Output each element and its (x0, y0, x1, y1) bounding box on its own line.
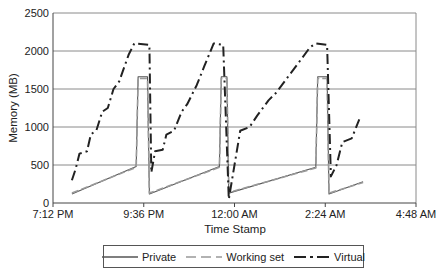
legend-label: Virtual (334, 251, 365, 263)
solid-line-icon (102, 253, 138, 261)
y-tick-labels: 05001000150020002500 (25, 7, 49, 209)
legend-item-virtual: Virtual (294, 251, 365, 263)
y-tick-label: 1000 (25, 121, 49, 133)
legend-item-working-set: Working set (186, 251, 284, 263)
x-axis-title: Time Stamp (204, 223, 266, 235)
x-tick-labels: 7:12 PM9:36 PM12:00 AM2:24 AM4:48 AM (33, 203, 437, 220)
x-tick-label: 4:48 AM (396, 208, 436, 220)
dashed-line-icon (186, 253, 222, 261)
x-tick-label: 9:36 PM (123, 208, 164, 220)
y-tick-label: 500 (31, 159, 49, 171)
memory-line-chart: 05001000150020002500 7:12 PM9:36 PM12:00… (0, 0, 443, 274)
chart-legend: Private Working set Virtual (103, 245, 364, 268)
x-tick-label: 2:24 AM (305, 208, 345, 220)
legend-item-private: Private (102, 251, 176, 263)
x-tick-label: 7:12 PM (33, 208, 74, 220)
series-working-set-line (72, 78, 363, 193)
dash-dot-line-icon (294, 253, 330, 261)
y-tick-label: 2500 (25, 7, 49, 19)
series-lines (72, 43, 363, 199)
y-tick-label: 1500 (25, 83, 49, 95)
y-axis-title: Memory (MB) (7, 73, 19, 143)
y-tick-label: 2000 (25, 45, 49, 57)
x-tick-label: 12:00 AM (211, 208, 257, 220)
legend-label: Private (142, 251, 176, 263)
legend-label: Working set (226, 251, 284, 263)
